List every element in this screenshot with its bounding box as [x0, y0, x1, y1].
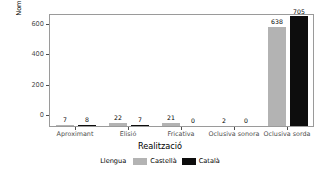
legend-title: Llengua — [100, 157, 126, 166]
legend-item-castella[interactable]: Castellà — [133, 157, 176, 166]
bar-catala[interactable] — [184, 125, 202, 126]
x-axis-title: Realització — [0, 141, 320, 152]
legend-swatch-castella — [133, 158, 147, 165]
bar-catala[interactable] — [131, 125, 149, 126]
bar-group-fricativa: 21 0 — [156, 15, 209, 126]
bar-castella[interactable] — [56, 125, 74, 126]
plot-panel: 7 8 22 7 21 0 2 — [49, 14, 314, 127]
bar-group-oclusiva-sorda: 638 705 — [262, 15, 315, 126]
y-axis-tick-400: 400 — [22, 51, 44, 58]
bar-value-label: 0 — [232, 117, 260, 124]
bar-value-label: 0 — [179, 117, 207, 124]
legend-item-catala[interactable]: Català — [182, 157, 220, 166]
bar-value-label: 705 — [285, 8, 313, 15]
plot-area: 7 8 22 7 21 0 2 — [50, 15, 313, 126]
bar-catala[interactable] — [237, 125, 255, 126]
legend-label-castella: Castellà — [150, 157, 176, 166]
bar-catala[interactable] — [290, 16, 308, 126]
legend: Llengua Castellà Català — [0, 157, 320, 166]
bar-group-oclusiva-sonora: 2 0 — [209, 15, 262, 126]
bar-value-label: 7 — [126, 116, 154, 123]
y-axis-tick-label: 400 — [31, 51, 44, 58]
x-axis-label-elisio: Elisió — [98, 130, 158, 139]
bar-catala[interactable] — [78, 125, 96, 126]
bar-value-label: 638 — [263, 18, 291, 25]
bar-castella[interactable] — [215, 125, 233, 126]
legend-label-catala: Català — [199, 157, 220, 166]
bar-group-aproximant: 7 8 — [50, 15, 103, 126]
bar-value-label: 8 — [73, 116, 101, 123]
y-axis-tick-label: 600 — [31, 21, 44, 28]
y-axis-tick-0: 0 — [22, 112, 44, 119]
bar-castella[interactable] — [162, 123, 180, 126]
bar-castella[interactable] — [109, 123, 127, 126]
y-axis-tick-label: 0 — [40, 112, 44, 119]
y-axis-tick-600: 600 — [22, 21, 44, 28]
x-axis-label-oclusiva-sorda: Oclusiva sorda — [252, 130, 320, 139]
bar-group-elisio: 22 7 — [103, 15, 156, 126]
y-axis-tick-200: 200 — [22, 82, 44, 89]
y-axis-tick-label: 200 — [31, 82, 44, 89]
legend-swatch-catala — [182, 158, 196, 165]
x-axis-label-aproximant: Aproximant — [45, 130, 105, 139]
bar-castella[interactable] — [268, 27, 286, 127]
bar-chart-figure: Nombre d'ocurrències 600 400 200 0 7 8 2… — [0, 0, 320, 176]
